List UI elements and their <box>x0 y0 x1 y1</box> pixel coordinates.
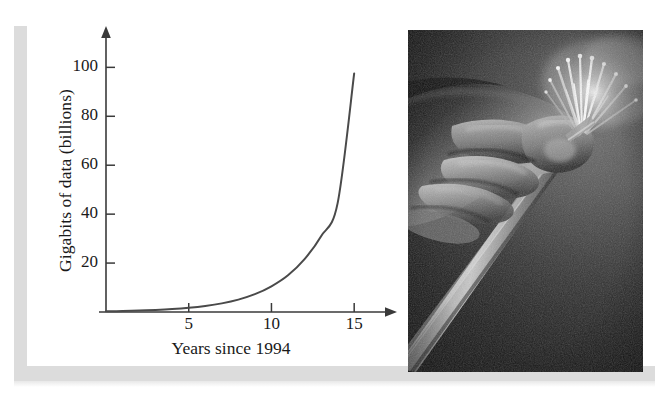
exponential-growth-chart: 20406080100 51015 Gigabits of data (bill… <box>27 18 402 366</box>
x-tick-label-5: 5 <box>174 314 204 334</box>
y-tick-label-100: 100 <box>56 56 98 76</box>
figure-root: 20406080100 51015 Gigabits of data (bill… <box>0 0 655 397</box>
fiber-optic-cable-photo <box>408 30 643 372</box>
decorative-bottom-bar-fade <box>14 381 655 387</box>
y-axis-arrowhead <box>101 26 111 38</box>
x-axis-title: Years since 1994 <box>131 338 331 359</box>
decorative-left-bar <box>14 26 27 371</box>
photo-artwork <box>408 30 643 372</box>
x-axis-arrowhead <box>385 307 397 317</box>
x-tick-label-10: 10 <box>256 314 286 334</box>
x-tick-label-15: 15 <box>339 314 369 334</box>
y-axis-title: Gigabits of data (billions) <box>55 76 76 286</box>
data-curve-exponential <box>106 73 354 311</box>
y-axis-tick-marks <box>106 67 115 263</box>
